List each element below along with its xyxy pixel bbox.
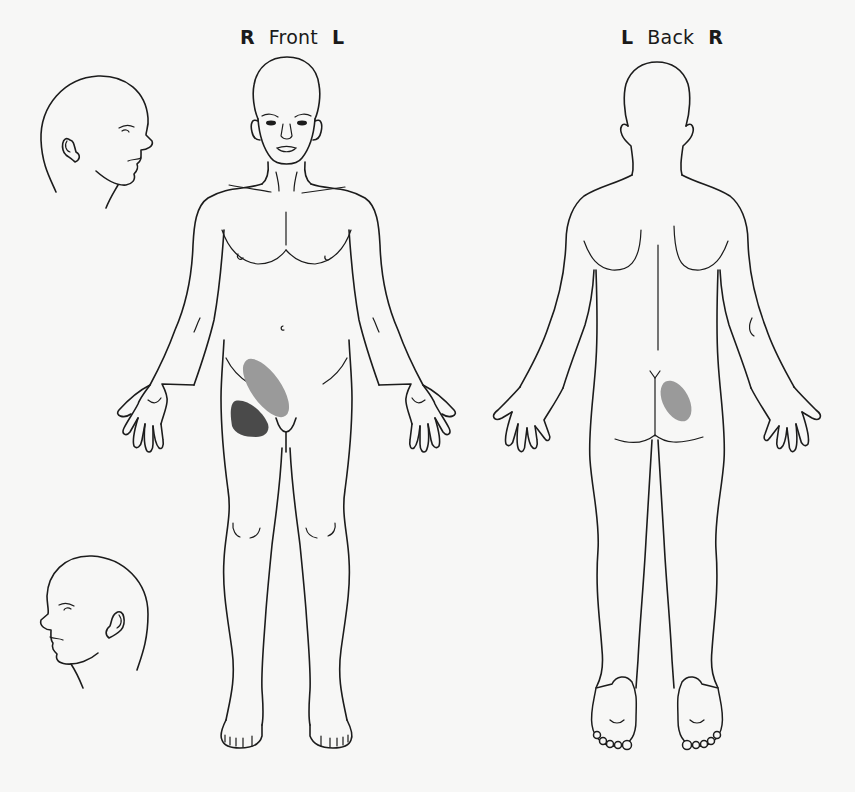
back-body-figure bbox=[494, 62, 821, 750]
pain-region-back-buttock bbox=[654, 375, 698, 426]
body-diagram-canvas bbox=[0, 0, 855, 792]
head-profile-left-facing bbox=[41, 556, 148, 688]
head-profile-right-facing bbox=[41, 76, 152, 208]
